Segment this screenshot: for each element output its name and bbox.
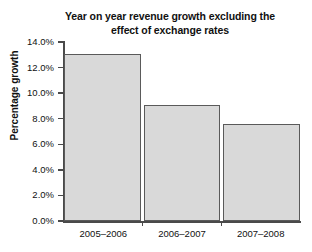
x-tick-mark <box>221 221 223 226</box>
chart-title-line-1: Year on year revenue growth excluding th… <box>65 10 275 22</box>
y-tick-label: 2.0% <box>8 190 54 200</box>
x-tick-mark <box>142 221 144 226</box>
y-tick-label: 8.0% <box>8 114 54 124</box>
chart-title: Year on year revenue growth excluding th… <box>36 9 304 37</box>
y-tick-label: 12.0% <box>8 63 54 73</box>
x-tick-label: 2005–2006 <box>64 228 143 240</box>
bar-chart-figure: Year on year revenue growth excluding th… <box>0 0 312 252</box>
x-tick-label: 2007–2008 <box>221 228 300 240</box>
x-axis-line <box>63 221 301 223</box>
bar-2006–2007 <box>144 105 220 221</box>
y-tick-label: 4.0% <box>8 165 54 175</box>
y-tick-label: 10.0% <box>8 88 54 98</box>
y-tick-label: 14.0% <box>8 37 54 47</box>
bars-layer <box>64 42 300 221</box>
bar-2007–2008 <box>223 124 300 221</box>
bar-2005–2006 <box>64 54 141 221</box>
y-tick-label: 0.0% <box>8 216 54 226</box>
chart-title-line-2: effect of exchange rates <box>111 24 229 36</box>
y-tick-label: 6.0% <box>8 139 54 149</box>
x-tick-label: 2006–2007 <box>143 228 222 240</box>
